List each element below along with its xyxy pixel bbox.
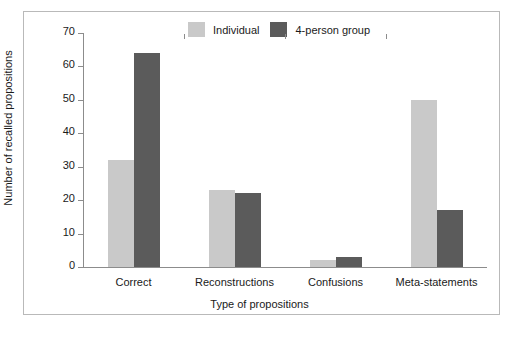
- x-tick-mark: [386, 34, 387, 39]
- bar-correct-individual: [108, 160, 134, 267]
- bar-confusions-individual: [310, 260, 336, 267]
- y-tick-mark: [78, 33, 83, 34]
- y-tick-label: 20: [63, 192, 75, 204]
- y-tick-label: 10: [63, 226, 75, 238]
- y-tick-label: 50: [63, 92, 75, 104]
- y-tick-label: 60: [63, 58, 75, 70]
- bar-chart-figure: Individual 4-person group 01020304050607…: [0, 0, 519, 337]
- y-tick-label: 30: [63, 159, 75, 171]
- bar-confusions-4-person-group: [336, 257, 362, 267]
- x-axis-title: Type of propositions: [0, 298, 519, 310]
- y-tick-mark: [78, 133, 83, 134]
- y-tick-label: 40: [63, 125, 75, 137]
- x-axis-label-correct: Correct: [115, 276, 151, 288]
- y-tick-mark: [78, 167, 83, 168]
- x-tick-mark: [184, 34, 185, 39]
- x-axis-line: [83, 267, 487, 268]
- x-tick-mark: [285, 34, 286, 39]
- y-tick-mark: [78, 100, 83, 101]
- bar-correct-4-person-group: [134, 53, 160, 267]
- x-axis-label-meta-statements: Meta-statements: [396, 276, 478, 288]
- y-tick-mark: [78, 200, 83, 201]
- bar-meta-statements-individual: [411, 100, 437, 267]
- y-tick-label: 0: [69, 259, 75, 271]
- bar-reconstructions-4-person-group: [235, 193, 261, 267]
- bar-reconstructions-individual: [209, 190, 235, 267]
- y-tick-mark: [78, 267, 83, 268]
- y-axis-title: Number of recalled propositions: [2, 3, 14, 253]
- x-axis-label-reconstructions: Reconstructions: [195, 276, 274, 288]
- y-tick-mark: [78, 66, 83, 67]
- plot-area: 010203040506070: [83, 33, 487, 267]
- bar-meta-statements-4-person-group: [437, 210, 463, 267]
- y-tick-mark: [78, 234, 83, 235]
- x-axis-label-confusions: Confusions: [308, 276, 363, 288]
- y-tick-label: 70: [63, 25, 75, 37]
